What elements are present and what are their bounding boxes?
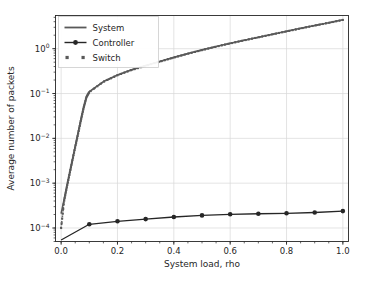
x-tick-label: 0.8 <box>280 246 294 256</box>
plot-svg: 0.00.20.40.60.81.010−410−310−210−1100 Sy… <box>0 0 373 284</box>
x-tick-label: 0.6 <box>223 246 237 256</box>
y-tick-label: 10−4 <box>30 222 50 233</box>
x-axis-title: System load, rho <box>164 259 241 269</box>
y-tick-label: 10−2 <box>30 132 50 143</box>
y-tick-label: 100 <box>35 42 50 53</box>
legend-label-controller: Controller <box>93 38 135 48</box>
x-tick-label: 0.2 <box>111 246 125 256</box>
y-tick-label: 10−1 <box>30 87 50 98</box>
x-tick-label: 0.0 <box>54 246 68 256</box>
x-tick-label: 1.0 <box>336 246 350 256</box>
legend-label-switch: Switch <box>93 53 121 63</box>
chart-figure: 0.00.20.40.60.81.010−410−310−210−1100 Sy… <box>0 0 373 284</box>
legend: SystemControllerSwitch <box>59 17 159 68</box>
y-tick-label: 10−3 <box>30 177 50 188</box>
y-axis-title: Average number of packets <box>6 66 16 190</box>
x-tick-label: 0.4 <box>167 246 181 256</box>
legend-label-system: System <box>93 23 125 33</box>
